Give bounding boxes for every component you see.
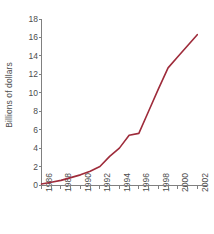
y-axis [39, 19, 42, 185]
x-axis-ticks [42, 185, 198, 189]
line-chart: Billions of dollars 024681012141618 1986… [0, 0, 214, 234]
x-axis [42, 185, 208, 189]
plot-area [0, 0, 214, 234]
data-series-line [42, 35, 198, 184]
